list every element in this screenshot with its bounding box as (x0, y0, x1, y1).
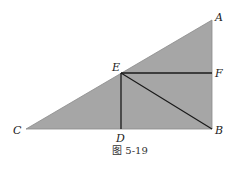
label-d: D (115, 132, 125, 145)
label-a: A (214, 11, 223, 24)
label-b: B (214, 124, 223, 137)
triangle-abc (26, 20, 212, 129)
label-c: C (13, 124, 22, 137)
label-f: F (214, 67, 223, 80)
geometry-figure: A B C D E F 图 5-19 (0, 0, 235, 169)
label-e: E (111, 61, 120, 74)
figure-caption: 图 5-19 (112, 145, 148, 156)
